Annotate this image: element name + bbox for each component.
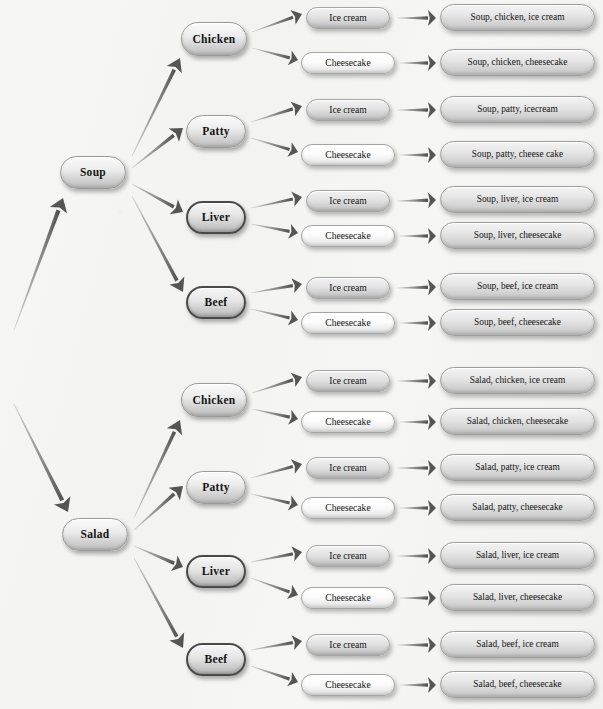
edge-arrowhead (287, 585, 298, 599)
dessert-node-d7[interactable]: Ice cream (306, 277, 390, 299)
dessert-node-d3[interactable]: Ice cream (306, 99, 390, 121)
edge-arrowhead (428, 10, 436, 26)
edge-shaft (251, 666, 290, 681)
edge-arrowhead (291, 192, 302, 207)
dessert-node-d2[interactable]: Cheesecake (301, 52, 395, 74)
edge-shaft (251, 197, 293, 208)
edge-shaft (400, 506, 428, 509)
edge-arrowhead (169, 633, 184, 648)
edge-arrowhead (428, 315, 436, 331)
edge-arrowhead (428, 637, 436, 653)
main-node-salad-patty[interactable]: Patty (186, 471, 246, 504)
main-node-soup-chicken[interactable]: Chicken (181, 22, 247, 56)
edge-shaft (252, 16, 294, 33)
main-node-soup-liver[interactable]: Liver (186, 201, 246, 234)
edge-shaft (400, 321, 428, 324)
outcome-node-o15[interactable]: Salad, beef, ice cream (440, 631, 595, 658)
edge-shaft (134, 558, 179, 638)
outcome-node-o7[interactable]: Soup, beef, ice cream (440, 273, 595, 300)
outcome-node-o9[interactable]: Salad, chicken, ice cream (440, 367, 595, 394)
edge-shaft (251, 465, 293, 478)
outcome-node-o13[interactable]: Salad, liver, ice cream (440, 542, 595, 569)
main-node-soup-beef[interactable]: Beef (186, 286, 246, 319)
edge-arrowhead (291, 459, 302, 474)
outcome-node-o2[interactable]: Soup, chicken, cheesecake (440, 49, 595, 76)
edge-arrowhead (167, 58, 182, 73)
edge-shaft (251, 552, 293, 562)
outcome-node-o1[interactable]: Soup, chicken, ice cream (440, 4, 595, 31)
dessert-node-d8[interactable]: Cheesecake (301, 312, 395, 334)
edge-shaft (400, 596, 428, 599)
edge-shaft (14, 209, 61, 330)
outcome-node-o4[interactable]: Soup, patty, cheese cake (440, 141, 595, 168)
edge-arrowhead (291, 278, 302, 293)
outcome-node-o14[interactable]: Salad, liver, cheesecake (440, 584, 595, 611)
starter-node-salad[interactable]: Salad (62, 518, 128, 551)
starter-node-soup[interactable]: Soup (60, 156, 126, 189)
edge-shaft (397, 285, 428, 288)
edge-arrowhead (428, 102, 436, 118)
edge-arrowhead (291, 546, 302, 561)
outcome-node-o11[interactable]: Salad, patty, ice cream (440, 454, 595, 481)
edge-shaft (251, 224, 290, 233)
dessert-node-d13[interactable]: Ice cream (306, 545, 390, 567)
edge-arrowhead (167, 420, 182, 435)
edge-arrowhead (170, 200, 183, 215)
edge-arrowhead (428, 460, 436, 476)
edge-arrowhead (291, 635, 302, 650)
dessert-node-d4[interactable]: Cheesecake (301, 144, 395, 166)
edge-shaft (397, 198, 428, 201)
edge-shaft (251, 494, 290, 505)
outcome-node-o12[interactable]: Salad, patty, cheesecake (440, 494, 595, 521)
edge-arrowhead (428, 55, 436, 71)
edge-shaft (400, 153, 428, 156)
edge-shaft (251, 578, 290, 594)
tree-diagram-canvas: SoupSaladChickenPattyLiverBeefChickenPat… (0, 0, 603, 709)
main-node-salad-liver[interactable]: Liver (186, 555, 246, 588)
edge-shaft (251, 309, 290, 320)
edge-shaft (397, 16, 428, 19)
edge-arrowhead (428, 279, 436, 295)
edge-arrowhead (54, 496, 70, 512)
edge-arrowhead (428, 147, 436, 163)
dessert-node-d5[interactable]: Ice cream (306, 190, 390, 212)
edge-shaft (132, 69, 176, 156)
edge-shaft (251, 107, 293, 122)
dessert-node-d11[interactable]: Ice cream (306, 457, 390, 479)
edge-shaft (251, 284, 293, 293)
outcome-node-o6[interactable]: Soup, liver, cheesecake (440, 222, 595, 249)
edge-shaft (134, 493, 176, 531)
outcome-node-o8[interactable]: Soup, beef, cheesecake (440, 309, 595, 336)
edge-arrowhead (288, 311, 298, 326)
dessert-node-d12[interactable]: Cheesecake (301, 497, 395, 519)
outcome-node-o10[interactable]: Salad, chicken, cheesecake (440, 408, 595, 435)
outcome-node-o3[interactable]: Soup, patty, icecream (440, 96, 595, 123)
dessert-node-d6[interactable]: Cheesecake (301, 225, 395, 247)
edge-arrowhead (428, 192, 436, 208)
edge-shaft (14, 404, 64, 501)
edge-shaft (252, 378, 294, 393)
edge-arrowhead (288, 50, 298, 65)
edge-arrowhead (288, 224, 298, 239)
dessert-node-d15[interactable]: Ice cream (306, 634, 390, 656)
edge-shaft (134, 546, 175, 565)
edge-shaft (252, 48, 290, 60)
edge-shaft (132, 196, 179, 282)
edge-shaft (252, 409, 290, 419)
edge-arrowhead (428, 548, 436, 564)
edge-arrowhead (428, 228, 436, 244)
edge-shaft (397, 643, 428, 646)
dessert-node-d10[interactable]: Cheesecake (301, 411, 395, 433)
outcome-node-o5[interactable]: Soup, liver, ice cream (440, 186, 595, 213)
edge-shaft (134, 431, 176, 518)
dessert-node-d1[interactable]: Ice cream (306, 7, 390, 29)
edge-arrowhead (428, 677, 436, 693)
dessert-node-d9[interactable]: Ice cream (306, 370, 390, 392)
edge-shaft (132, 184, 175, 209)
dessert-node-d16[interactable]: Cheesecake (301, 674, 395, 696)
main-node-salad-beef[interactable]: Beef (186, 643, 246, 676)
main-node-salad-chicken[interactable]: Chicken (181, 383, 247, 417)
outcome-node-o16[interactable]: Salad, beef, cheesecake (440, 671, 595, 698)
main-node-soup-patty[interactable]: Patty (186, 115, 246, 148)
dessert-node-d14[interactable]: Cheesecake (301, 587, 395, 609)
